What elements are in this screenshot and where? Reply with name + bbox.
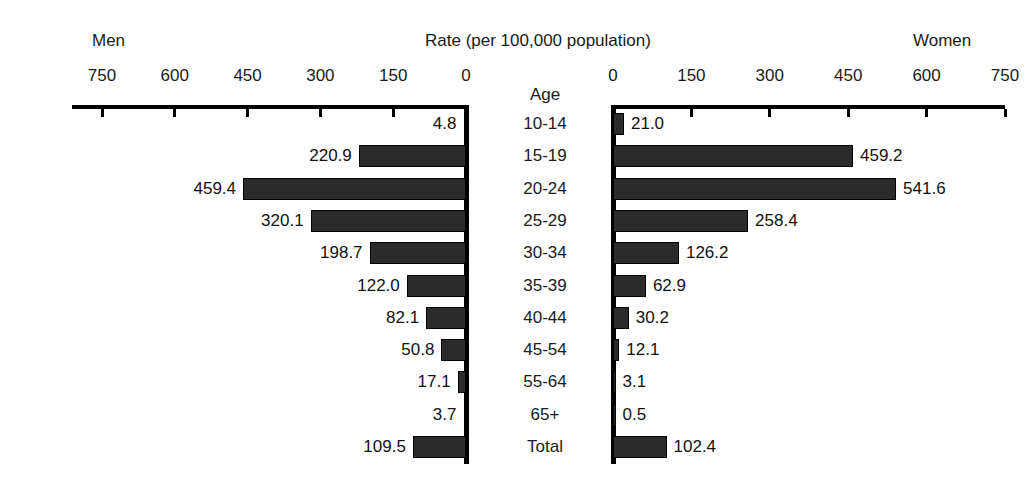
men-value-label: 17.1 xyxy=(418,372,451,392)
women-bar xyxy=(613,307,629,329)
age-label: 65+ xyxy=(531,405,560,425)
age-label: 35-39 xyxy=(523,276,566,296)
women-bar xyxy=(613,145,853,167)
women-value-label: 459.2 xyxy=(860,146,903,166)
age-label: 45-54 xyxy=(523,340,566,360)
age-label: Total xyxy=(527,437,563,457)
age-label: 30-34 xyxy=(523,243,566,263)
women-value-label: 258.4 xyxy=(755,211,798,231)
axis-tick xyxy=(690,109,693,117)
women-bar xyxy=(613,178,896,200)
axis-tick xyxy=(1004,109,1007,117)
women-value-label: 3.1 xyxy=(623,372,647,392)
axis-tick xyxy=(768,109,771,117)
men-value-label: 3.7 xyxy=(433,405,457,425)
men-tick-label: 150 xyxy=(379,66,407,86)
age-label: 25-29 xyxy=(523,211,566,231)
women-value-label: 541.6 xyxy=(903,179,946,199)
axis-tick xyxy=(925,109,928,117)
women-bar xyxy=(613,242,679,264)
men-panel-label: Men xyxy=(92,31,125,51)
women-tick-label: 750 xyxy=(991,66,1019,86)
age-label: 10-14 xyxy=(523,114,566,134)
men-value-label: 220.9 xyxy=(309,146,352,166)
women-bar xyxy=(613,404,616,426)
axis-tick xyxy=(847,109,850,117)
women-tick-label: 300 xyxy=(756,66,784,86)
men-value-label: 82.1 xyxy=(386,308,419,328)
men-bar xyxy=(464,404,467,426)
men-bar xyxy=(413,436,466,458)
men-value-label: 320.1 xyxy=(261,211,304,231)
women-tick-label: 0 xyxy=(608,66,617,86)
women-value-label: 30.2 xyxy=(636,308,669,328)
women-bar xyxy=(613,436,667,458)
age-label: 15-19 xyxy=(523,146,566,166)
men-tick-label: 0 xyxy=(461,66,470,86)
men-bar xyxy=(370,242,466,264)
women-panel-label: Women xyxy=(913,31,971,51)
axis-tick xyxy=(101,109,104,117)
age-label: 40-44 xyxy=(523,308,566,328)
women-axis-line xyxy=(613,105,1005,109)
men-value-label: 122.0 xyxy=(357,276,400,296)
women-bar xyxy=(613,210,748,232)
axis-tick xyxy=(392,109,395,117)
men-tick-label: 450 xyxy=(233,66,261,86)
men-bar xyxy=(311,210,466,232)
women-bar xyxy=(613,275,646,297)
men-bar xyxy=(441,339,466,361)
age-column-header: Age xyxy=(530,85,560,105)
men-bar xyxy=(464,113,467,135)
women-bar xyxy=(613,113,624,135)
age-label: 20-24 xyxy=(523,179,566,199)
men-value-label: 50.8 xyxy=(401,340,434,360)
women-bar xyxy=(613,371,616,393)
men-bar xyxy=(426,307,466,329)
axis-tick xyxy=(319,109,322,117)
women-tick-label: 600 xyxy=(912,66,940,86)
men-bar xyxy=(359,145,466,167)
men-bar xyxy=(407,275,466,297)
women-tick-label: 450 xyxy=(834,66,862,86)
axis-tick xyxy=(173,109,176,117)
age-label: 55-64 xyxy=(523,372,566,392)
men-bar xyxy=(458,371,466,393)
men-axis-line xyxy=(72,105,466,109)
women-value-label: 0.5 xyxy=(623,405,647,425)
axis-tick xyxy=(246,109,249,117)
women-value-label: 102.4 xyxy=(674,437,717,457)
women-value-label: 62.9 xyxy=(653,276,686,296)
men-value-label: 4.8 xyxy=(433,114,457,134)
men-bar xyxy=(243,178,466,200)
chart-title: Rate (per 100,000 population) xyxy=(425,31,651,51)
women-bar xyxy=(613,339,619,361)
men-value-label: 198.7 xyxy=(320,243,363,263)
men-tick-label: 300 xyxy=(306,66,334,86)
women-value-label: 126.2 xyxy=(686,243,729,263)
men-tick-label: 600 xyxy=(161,66,189,86)
men-tick-label: 750 xyxy=(88,66,116,86)
population-pyramid-chart: Men Rate (per 100,000 population) Women … xyxy=(0,0,1031,504)
women-value-label: 21.0 xyxy=(631,114,664,134)
men-value-label: 459.4 xyxy=(193,179,236,199)
women-tick-label: 150 xyxy=(677,66,705,86)
women-value-label: 12.1 xyxy=(626,340,659,360)
men-value-label: 109.5 xyxy=(363,437,406,457)
